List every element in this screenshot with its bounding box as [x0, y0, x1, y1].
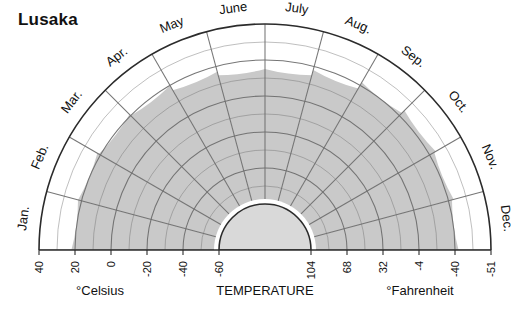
month-label: June	[218, 0, 248, 17]
polar-climate-chart: 40200-20-40-60-51-40-43268104°Celsius°Fa…	[0, 0, 530, 314]
month-label: Mar.	[58, 87, 85, 116]
month-label: Apr.	[103, 43, 130, 69]
month-label: Nov.	[479, 142, 503, 172]
celsius-tick-label: -40	[177, 261, 189, 277]
month-label: Aug.	[343, 12, 373, 36]
fahrenheit-tick-label: 68	[341, 261, 353, 273]
fahrenheit-tick-label: -40	[449, 261, 461, 277]
fahrenheit-axis-label: °Fahrenheit	[386, 283, 454, 298]
month-label: Oct.	[445, 87, 471, 115]
month-label: July	[284, 0, 309, 17]
fahrenheit-tick-label: -4	[413, 261, 425, 271]
celsius-tick-label: -60	[213, 261, 225, 277]
celsius-tick-label: 40	[33, 261, 45, 273]
celsius-axis-label: °Celsius	[76, 283, 124, 298]
month-label: Jan.	[14, 205, 32, 231]
celsius-tick-label: -20	[141, 261, 153, 277]
month-label: Sep.	[398, 42, 428, 70]
month-label: Dec.	[498, 204, 516, 232]
celsius-tick-label: 0	[105, 261, 117, 267]
fahrenheit-tick-label: 32	[377, 261, 389, 273]
fahrenheit-tick-label: -51	[485, 261, 497, 277]
temperature-axis-label: TEMPERATURE	[216, 283, 314, 298]
month-label: May	[157, 13, 186, 36]
fahrenheit-tick-label: 104	[305, 261, 317, 279]
climate-chart-figure: Lusaka 40200-20-40-60-51-40-43268104°Cel…	[0, 0, 530, 314]
month-label: Feb.	[28, 142, 52, 172]
celsius-tick-label: 20	[69, 261, 81, 273]
